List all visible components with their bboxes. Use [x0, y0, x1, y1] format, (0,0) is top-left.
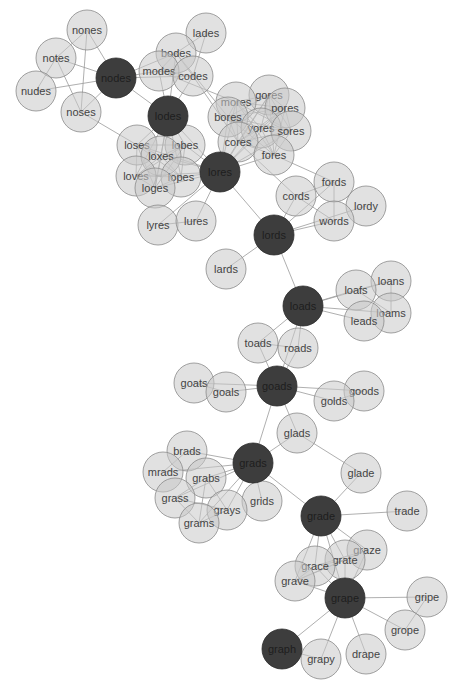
- node-label: loads: [290, 300, 317, 312]
- node-label: loans: [378, 275, 405, 287]
- node-cords[interactable]: cords: [276, 176, 316, 216]
- node-label: grate: [332, 554, 357, 566]
- node-label: fords: [322, 176, 347, 188]
- node-label: glade: [348, 467, 375, 479]
- node-label: lodes: [155, 110, 182, 122]
- node-golds[interactable]: golds: [314, 381, 354, 421]
- node-label: cords: [283, 190, 310, 202]
- node-label: glads: [284, 427, 311, 439]
- node-label: sores: [278, 125, 305, 137]
- node-label: lyres: [146, 219, 170, 231]
- node-fores[interactable]: fores: [254, 135, 294, 175]
- node-label: mrads: [148, 466, 179, 478]
- node-goads[interactable]: goads: [257, 366, 297, 406]
- node-label: modes: [142, 65, 176, 77]
- node-label: lores: [208, 166, 232, 178]
- node-label: roads: [284, 342, 312, 354]
- node-lodes[interactable]: lodes: [148, 96, 188, 136]
- node-grade[interactable]: grade: [301, 496, 341, 536]
- node-label: grabs: [192, 472, 220, 484]
- node-drape[interactable]: drape: [346, 634, 386, 674]
- node-grope[interactable]: grope: [385, 610, 425, 650]
- node-label: grids: [250, 495, 274, 507]
- node-label: noses: [66, 106, 96, 118]
- node-modes[interactable]: modes: [139, 51, 179, 91]
- node-fords[interactable]: fords: [314, 162, 354, 202]
- node-label: lords: [262, 229, 286, 241]
- node-label: goods: [349, 385, 379, 397]
- node-roads[interactable]: roads: [278, 328, 318, 368]
- node-label: codes: [178, 70, 208, 82]
- node-lords[interactable]: lords: [254, 215, 294, 255]
- node-label: goads: [262, 380, 292, 392]
- node-label: nones: [72, 24, 102, 36]
- node-label: cores: [225, 136, 252, 148]
- node-toads[interactable]: toads: [238, 323, 278, 363]
- node-graph[interactable]: graph: [262, 629, 302, 669]
- node-label: golds: [321, 395, 348, 407]
- node-label: lordy: [354, 200, 378, 212]
- node-goals[interactable]: goals: [206, 372, 246, 412]
- node-label: graph: [268, 643, 296, 655]
- node-grapy[interactable]: grapy: [301, 639, 341, 679]
- node-label: grope: [391, 624, 419, 636]
- nodes-layer: nonesladesnotesbodesmodescodesnudesnoses…: [16, 10, 447, 679]
- node-label: notes: [43, 52, 70, 64]
- node-loges[interactable]: loges: [135, 168, 175, 208]
- node-label: grapy: [307, 653, 335, 665]
- node-label: bores: [214, 111, 242, 123]
- node-grams[interactable]: grams: [179, 503, 219, 543]
- node-label: drape: [352, 648, 380, 660]
- node-codes[interactable]: codes: [173, 56, 213, 96]
- node-label: goats: [181, 377, 208, 389]
- node-nodes[interactable]: nodes: [96, 58, 136, 98]
- node-glads[interactable]: glads: [277, 413, 317, 453]
- node-label: gripe: [415, 591, 439, 603]
- node-label: leads: [351, 315, 378, 327]
- node-lures[interactable]: lures: [176, 201, 216, 241]
- node-label: grave: [281, 575, 309, 587]
- node-noses[interactable]: noses: [61, 92, 101, 132]
- node-gripe[interactable]: gripe: [407, 577, 447, 617]
- node-label: loges: [142, 182, 169, 194]
- node-label: nudes: [21, 85, 51, 97]
- node-label: grape: [331, 592, 359, 604]
- node-lards[interactable]: lards: [206, 249, 246, 289]
- node-label: lures: [184, 215, 208, 227]
- node-grads[interactable]: grads: [233, 443, 273, 483]
- node-label: grass: [162, 492, 189, 504]
- node-label: trade: [394, 505, 419, 517]
- node-nudes[interactable]: nudes: [16, 71, 56, 111]
- node-label: grade: [307, 510, 335, 522]
- node-glade[interactable]: glade: [341, 453, 381, 493]
- node-trade[interactable]: trade: [387, 491, 427, 531]
- node-label: loafs: [344, 284, 368, 296]
- node-label: lards: [214, 263, 238, 275]
- node-label: nodes: [101, 72, 131, 84]
- node-label: toads: [245, 337, 272, 349]
- node-lyres[interactable]: lyres: [138, 205, 178, 245]
- node-label: grads: [239, 457, 267, 469]
- node-grave[interactable]: grave: [275, 561, 315, 601]
- node-label: grams: [184, 517, 215, 529]
- node-words[interactable]: words: [314, 201, 354, 241]
- node-label: grays: [214, 504, 241, 516]
- node-nones[interactable]: nones: [67, 10, 107, 50]
- node-label: goals: [213, 386, 240, 398]
- node-label: fores: [262, 149, 287, 161]
- node-label: lades: [193, 27, 220, 39]
- node-grape[interactable]: grape: [325, 578, 365, 618]
- node-lores[interactable]: lores: [200, 152, 240, 192]
- node-leads[interactable]: leads: [344, 301, 384, 341]
- node-label: words: [318, 215, 349, 227]
- node-label: brads: [173, 445, 201, 457]
- word-network-diagram: nonesladesnotesbodesmodescodesnudesnoses…: [0, 0, 459, 685]
- node-grids[interactable]: grids: [242, 481, 282, 521]
- node-loads[interactable]: loads: [283, 286, 323, 326]
